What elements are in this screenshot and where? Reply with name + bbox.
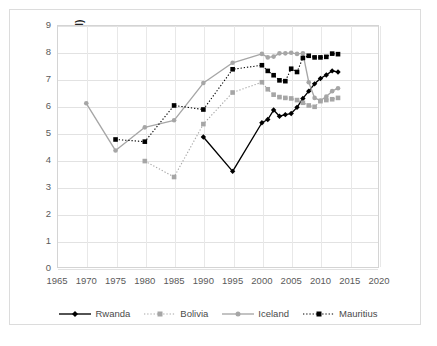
data-point	[289, 51, 294, 56]
data-point	[277, 51, 282, 56]
data-point	[301, 56, 306, 61]
data-point	[143, 125, 148, 130]
legend-label: Bolivia	[180, 309, 208, 319]
data-point	[277, 95, 282, 100]
data-point	[113, 137, 118, 142]
data-point	[201, 122, 206, 127]
data-point	[330, 89, 335, 94]
data-point	[283, 51, 288, 56]
data-point	[336, 52, 341, 57]
data-point	[301, 51, 306, 56]
series-line	[203, 71, 338, 171]
data-point	[289, 66, 294, 71]
legend-marker-square-icon	[143, 309, 177, 319]
chart-figure: EFW Score (chain-linked) 012345678919651…	[0, 0, 437, 346]
legend-marker-diamond-icon	[58, 309, 92, 319]
series-mauritius	[113, 51, 340, 144]
data-point	[295, 52, 300, 57]
chart-legend: RwandaBoliviaIcelandMauritius	[57, 306, 379, 322]
data-point	[283, 96, 288, 101]
legend-label: Iceland	[258, 309, 289, 319]
series-layer	[57, 25, 379, 268]
data-point	[172, 175, 177, 180]
data-point	[271, 92, 276, 97]
data-point	[336, 86, 341, 91]
data-point	[295, 70, 300, 75]
data-point	[295, 98, 300, 103]
gridline-horizontal	[58, 269, 378, 270]
data-point	[306, 80, 311, 85]
legend-marker-square-icon	[302, 309, 336, 319]
data-point	[301, 100, 306, 105]
data-point	[336, 96, 341, 101]
data-point	[172, 118, 177, 123]
data-point	[324, 94, 329, 99]
data-point	[318, 98, 323, 103]
data-point	[324, 55, 329, 60]
data-point	[306, 103, 311, 108]
series-line	[145, 82, 338, 177]
legend-item-iceland[interactable]: Iceland	[221, 309, 289, 319]
data-point	[230, 61, 235, 66]
data-point	[330, 51, 335, 56]
legend-item-rwanda[interactable]: Rwanda	[58, 309, 130, 319]
data-point	[230, 67, 235, 72]
data-point	[318, 55, 323, 60]
data-point	[312, 96, 317, 101]
legend-item-mauritius[interactable]: Mauritius	[302, 309, 378, 319]
data-point	[271, 73, 276, 78]
data-point	[312, 105, 317, 110]
data-point	[260, 80, 265, 85]
data-point	[84, 101, 89, 106]
data-point	[283, 112, 288, 117]
data-point	[143, 139, 148, 144]
data-point	[201, 81, 206, 86]
data-point	[283, 79, 288, 84]
legend-label: Rwanda	[95, 309, 130, 319]
data-point	[230, 90, 235, 95]
data-point	[265, 69, 270, 74]
legend-item-bolivia[interactable]: Bolivia	[143, 309, 208, 319]
data-point	[265, 55, 270, 60]
data-point	[172, 103, 177, 108]
legend-label: Mauritius	[339, 309, 378, 319]
data-point	[289, 96, 294, 101]
data-point	[265, 87, 270, 92]
gridline-vertical	[380, 26, 381, 267]
data-point	[277, 78, 282, 83]
data-point	[201, 107, 206, 112]
data-point	[143, 159, 148, 164]
series-bolivia	[143, 80, 341, 179]
data-point	[260, 52, 265, 57]
data-point	[335, 69, 340, 74]
data-point	[260, 63, 265, 68]
data-point	[306, 53, 311, 58]
data-point	[271, 54, 276, 59]
data-point	[312, 55, 317, 60]
legend-marker-circle-icon	[221, 309, 255, 319]
series-rwanda	[201, 68, 341, 174]
data-point	[330, 97, 335, 102]
data-point	[113, 148, 118, 153]
